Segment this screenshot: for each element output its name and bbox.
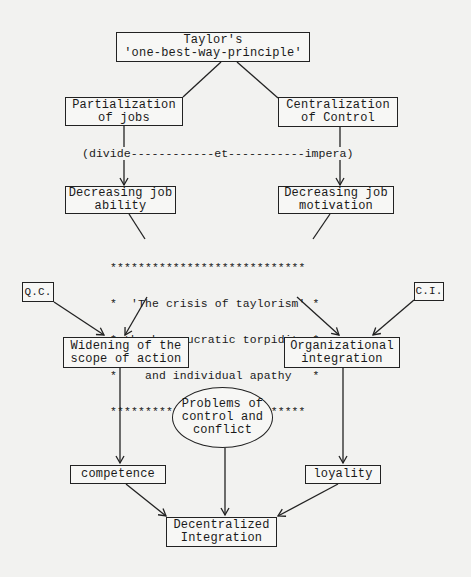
- centralization-line2: of Control: [301, 112, 375, 125]
- partialization-line1: Partialization: [72, 99, 176, 112]
- organizational-line2: integration: [301, 353, 382, 366]
- ability-line2: ability: [95, 200, 147, 213]
- widening-line1: Widening of the: [70, 340, 181, 353]
- widening-scope-box: Widening of the scope of action: [63, 337, 189, 368]
- widening-line2: scope of action: [70, 353, 181, 366]
- partialization-line2: of jobs: [98, 112, 150, 125]
- centralization-box: Centralization of Control: [278, 97, 398, 127]
- loyality-box: loyality: [305, 465, 381, 484]
- loyality-label: loyality: [313, 468, 372, 481]
- decreasing-motivation-box: Decreasing job motivation: [278, 186, 394, 214]
- crisis-line3: * and individual apathy *: [110, 370, 332, 382]
- organizational-line1: Organizational: [290, 340, 394, 353]
- ci-label: C.I.: [415, 285, 442, 298]
- decentralized-line2: Integration: [181, 532, 262, 545]
- crisis-border-top: ****************************: [110, 262, 332, 274]
- divide-et-impera-label: (divide------------et-----------impera): [82, 147, 353, 160]
- qc-box: Q.C.: [22, 282, 54, 302]
- motivation-line2: motivation: [299, 200, 373, 213]
- organizational-integration-box: Organizational integration: [284, 337, 400, 368]
- qc-label: Q.C.: [24, 286, 51, 299]
- taylor-principle-box: Taylor's 'one-best-way-principle': [116, 32, 310, 62]
- problems-ellipse: Problems of control and conflict: [172, 387, 273, 448]
- principle-label: 'one-best-way-principle': [124, 47, 302, 60]
- problems-line3: conflict: [193, 424, 252, 437]
- competence-label: competence: [81, 468, 155, 481]
- competence-box: competence: [70, 465, 166, 484]
- partialization-box: Partialization of jobs: [65, 97, 183, 126]
- ci-box: C.I.: [414, 282, 444, 301]
- flow-diagram: Taylor's 'one-best-way-principle' Partia…: [0, 0, 471, 577]
- decreasing-ability-box: Decreasing job ability: [65, 186, 176, 214]
- decentralized-integration-box: Decentralized Integration: [166, 517, 277, 547]
- crisis-line1: * 'The crisis of taylorism' *: [110, 298, 332, 310]
